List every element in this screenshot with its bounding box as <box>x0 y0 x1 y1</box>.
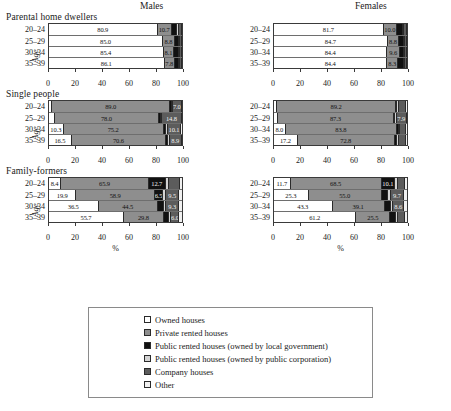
bar-segment[interactable]: 29.8 <box>123 212 163 222</box>
bar-segment[interactable]: 84.7 <box>274 36 387 46</box>
bar-segment[interactable] <box>398 101 405 112</box>
bar-segment[interactable] <box>181 24 182 35</box>
bar-segment[interactable]: 8.0 <box>274 124 285 134</box>
bar-segment[interactable]: 84.4 <box>274 47 386 57</box>
bar-segment[interactable] <box>181 58 182 68</box>
bar-row[interactable]: 20–248.465.912.7 <box>49 178 182 189</box>
bar-segment[interactable]: 78.0 <box>54 113 158 123</box>
bar-segment[interactable]: 14.8 <box>161 113 181 123</box>
bar-segment[interactable]: 8.9 <box>169 135 181 145</box>
bar-segment[interactable] <box>179 178 182 189</box>
bar-segment[interactable]: 10.3 <box>49 124 63 134</box>
bar-segment[interactable]: 75.2 <box>63 124 163 134</box>
bar-segment[interactable]: 16.5 <box>49 135 71 145</box>
bar-segment[interactable]: 70.6 <box>71 135 165 145</box>
bar-segment[interactable] <box>403 201 407 211</box>
bar-row[interactable]: 30–3410.375.210.1 <box>49 123 182 134</box>
legend-item[interactable]: Other <box>89 378 372 391</box>
bar-segment[interactable] <box>397 178 404 189</box>
bar-segment[interactable]: 19.9 <box>49 190 75 200</box>
bar-row[interactable]: 30–3485.48.1 <box>49 46 182 57</box>
bar-segment[interactable]: 43.3 <box>274 201 332 211</box>
bar-segment[interactable]: 8.8 <box>387 36 399 46</box>
bar-segment[interactable]: 17.2 <box>274 135 297 145</box>
bar-segment[interactable] <box>181 135 182 145</box>
bar-segment[interactable] <box>405 101 407 112</box>
bar-row[interactable]: 25–2984.78.8 <box>274 35 407 46</box>
bar-segment[interactable] <box>403 190 407 200</box>
bar-segment[interactable] <box>405 124 407 134</box>
bar-segment[interactable] <box>406 47 407 57</box>
bar-segment[interactable]: 8.6 <box>392 201 403 211</box>
bar-row[interactable]: 20–2489.07.0 <box>49 101 182 112</box>
bar-segment[interactable] <box>181 47 182 57</box>
bar-segment[interactable]: 89.0 <box>51 101 169 112</box>
bar-segment[interactable]: 11.7 <box>274 178 290 189</box>
bar-segment[interactable] <box>406 24 407 35</box>
bar-segment[interactable]: 7.9 <box>396 113 406 123</box>
bar-segment[interactable]: 81.7 <box>274 24 383 35</box>
bar-segment[interactable]: 55.7 <box>49 212 123 222</box>
bar-segment[interactable]: 12.7 <box>148 178 165 189</box>
bar-row[interactable]: 25–2919.958.96.59.5 <box>49 189 182 200</box>
bar-row[interactable]: 25–2985.08.8 <box>49 35 182 46</box>
legend-item[interactable]: Public rented houses (owned by public co… <box>89 352 372 365</box>
bar-segment[interactable] <box>404 212 407 222</box>
bar-segment[interactable] <box>168 178 179 189</box>
bar-segment[interactable]: 72.8 <box>297 135 394 145</box>
bar-segment[interactable] <box>178 190 182 200</box>
bar-segment[interactable]: 25.3 <box>274 190 308 200</box>
bar-segment[interactable]: 9.5 <box>165 190 178 200</box>
bar-segment[interactable]: 85.0 <box>49 36 162 46</box>
legend-item[interactable]: Company houses <box>89 365 372 378</box>
bar-segment[interactable]: 89.2 <box>276 101 395 112</box>
bar-segment[interactable] <box>397 212 404 222</box>
bar-segment[interactable]: 80.9 <box>49 24 157 35</box>
bar-segment[interactable] <box>404 178 407 189</box>
bar-segment[interactable]: 85.4 <box>49 47 163 57</box>
bar-row[interactable]: 20–2480.910.7 <box>49 24 182 35</box>
bar-segment[interactable] <box>381 190 388 200</box>
bar-row[interactable]: 25–2987.37.9 <box>274 112 407 123</box>
bar-row[interactable]: 35–3917.272.8 <box>274 134 407 145</box>
bar-segment[interactable] <box>406 36 407 46</box>
bar-row[interactable]: 30–3484.49.6 <box>274 46 407 57</box>
bar-segment[interactable]: 25.5 <box>355 212 389 222</box>
bar-segment[interactable]: 10.7 <box>157 24 171 35</box>
bar-row[interactable]: 20–2489.2 <box>274 101 407 112</box>
bar-row[interactable]: 20–2411.768.510.1 <box>274 178 407 189</box>
bar-segment[interactable]: 36.5 <box>49 201 98 211</box>
bar-row[interactable]: 25–2925.355.09.7 <box>274 189 407 200</box>
bar-row[interactable]: 30–3443.339.18.6 <box>274 200 407 211</box>
bar-segment[interactable]: 65.9 <box>60 178 148 189</box>
bar-segment[interactable]: 8.1 <box>163 47 174 57</box>
bar-segment[interactable] <box>178 201 182 211</box>
bar-segment[interactable]: 39.1 <box>332 201 384 211</box>
bar-segment[interactable]: 55.0 <box>308 190 381 200</box>
bar-segment[interactable] <box>398 135 405 145</box>
bar-segment[interactable]: 10.1 <box>381 178 394 189</box>
bar-segment[interactable]: 87.3 <box>277 113 393 123</box>
legend-item[interactable]: Private rented houses <box>89 326 372 339</box>
bar-segment[interactable]: 7.0 <box>172 101 181 112</box>
bar-segment[interactable] <box>181 113 182 123</box>
bar-row[interactable]: 30–3436.544.59.3 <box>49 200 182 211</box>
bar-row[interactable]: 20–2481.710.0 <box>274 24 407 35</box>
bar-row[interactable]: 35–3961.225.5 <box>274 211 407 222</box>
bar-segment[interactable]: 8.8 <box>162 36 174 46</box>
bar-segment[interactable]: 7.8 <box>164 58 174 68</box>
bar-segment[interactable]: 10.1 <box>167 124 180 134</box>
bar-segment[interactable]: 10.0 <box>383 24 396 35</box>
bar-segment[interactable]: 68.5 <box>290 178 381 189</box>
bar-segment[interactable]: 6.0 <box>170 212 178 222</box>
bar-segment[interactable] <box>181 101 182 112</box>
bar-segment[interactable]: 86.1 <box>49 58 164 68</box>
bar-segment[interactable]: 84.4 <box>274 58 386 68</box>
bar-segment[interactable] <box>405 135 407 145</box>
bar-segment[interactable]: 6.5 <box>154 190 163 200</box>
bar-segment[interactable]: 58.9 <box>75 190 153 200</box>
bar-segment[interactable]: 8.3 <box>386 58 397 68</box>
bar-row[interactable]: 30–348.083.8 <box>274 123 407 134</box>
bar-row[interactable]: 35–3916.570.68.9 <box>49 134 182 145</box>
bar-row[interactable]: 25–2978.014.8 <box>49 112 182 123</box>
